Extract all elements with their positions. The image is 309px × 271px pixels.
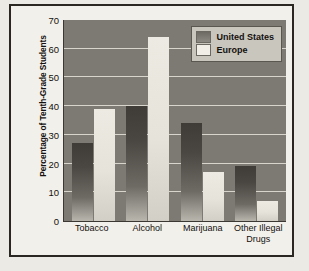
y-tick-label: 10 — [31, 187, 59, 198]
legend-label: United States — [216, 32, 274, 42]
legend-swatch-icon — [196, 44, 211, 56]
y-tick-label: 70 — [31, 15, 59, 26]
bar[interactable] — [181, 123, 202, 221]
bar-group — [121, 20, 176, 221]
bar[interactable] — [257, 201, 278, 221]
x-tick-label: Other Illegal Drugs — [231, 223, 287, 245]
y-axis-tick-labels: 706050403020100 — [31, 6, 59, 255]
bar-group — [66, 20, 121, 221]
chart-figure: Percentage of Tenth-Grade Students 70605… — [9, 4, 294, 257]
x-tick-label: Tobacco — [64, 223, 120, 245]
bar[interactable] — [148, 37, 169, 221]
bar[interactable] — [94, 109, 115, 221]
y-tick-label: 0 — [31, 216, 59, 227]
chart-legend: United StatesEurope — [191, 26, 282, 62]
y-tick-label: 40 — [31, 101, 59, 112]
y-tick-label: 60 — [31, 43, 59, 54]
bar[interactable] — [203, 172, 224, 221]
y-tick-label: 50 — [31, 72, 59, 83]
y-tick-label: 30 — [31, 129, 59, 140]
legend-swatch-icon — [196, 31, 211, 43]
bar[interactable] — [72, 143, 93, 221]
legend-item[interactable]: United States — [196, 31, 274, 43]
x-tick-label: Marijuana — [175, 223, 231, 245]
legend-item[interactable]: Europe — [196, 44, 274, 56]
y-tick-label: 20 — [31, 158, 59, 169]
bar[interactable] — [126, 106, 147, 221]
x-axis-tick-labels: TobaccoAlcoholMarijuanaOther Illegal Dru… — [64, 223, 286, 245]
legend-label: Europe — [216, 45, 247, 55]
x-tick-label: Alcohol — [120, 223, 176, 245]
bar[interactable] — [235, 166, 256, 221]
plot-area: United StatesEurope — [63, 20, 286, 222]
